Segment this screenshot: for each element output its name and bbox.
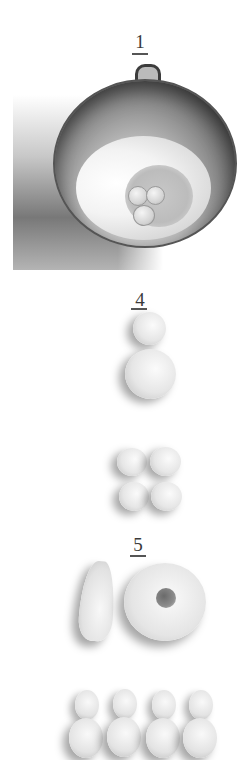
egg-yolk-1 bbox=[128, 186, 148, 206]
dough-figure-eight-4 bbox=[183, 690, 217, 760]
dough-figure-eight-3 bbox=[146, 690, 180, 760]
dough-teardrop bbox=[77, 560, 116, 642]
dough-ball-large bbox=[125, 349, 176, 399]
dough-ball-quad-4 bbox=[151, 482, 182, 511]
step-number-1: 1 bbox=[120, 32, 160, 51]
dough-figure-eight-1 bbox=[69, 690, 103, 760]
dough-ball-quad-3 bbox=[119, 482, 149, 511]
step-number-5: 5 bbox=[118, 535, 158, 554]
dough-ball-quad-2 bbox=[150, 447, 181, 476]
egg-yolk-2 bbox=[146, 186, 165, 205]
dough-ball-small bbox=[133, 312, 166, 345]
step-number-4: 4 bbox=[120, 290, 160, 309]
dough-ring-hole bbox=[156, 588, 176, 608]
step-5-underline bbox=[130, 555, 146, 557]
dough-figure-eight-2 bbox=[107, 689, 141, 759]
dough-ball-quad-1 bbox=[117, 448, 147, 476]
egg-yolk-3 bbox=[133, 205, 155, 226]
step-4-underline bbox=[131, 308, 147, 310]
step-1-underline bbox=[132, 53, 148, 55]
